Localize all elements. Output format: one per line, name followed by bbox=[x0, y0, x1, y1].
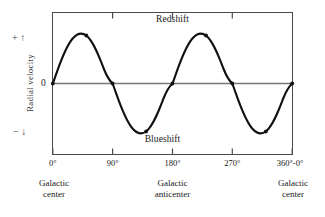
caption-line-1: Galactic bbox=[39, 178, 69, 188]
caption-line-2: center bbox=[39, 189, 69, 200]
blueshift-annotation: Blueshift bbox=[0, 134, 325, 144]
y-axis-title: Radial velocity bbox=[25, 8, 35, 158]
x-caption-galactic-center-left: Galactic center bbox=[39, 178, 69, 200]
caption-line-2: center bbox=[278, 189, 308, 200]
x-tick-label-90: 90° bbox=[107, 158, 119, 168]
y-axis-plus-sign: + ↑ bbox=[12, 32, 25, 43]
x-tick-label-360: 360°-0° bbox=[277, 158, 304, 168]
x-caption-galactic-anticenter: Galactic anticenter bbox=[155, 178, 190, 200]
radial-velocity-figure: Redshift Blueshift 0 + ↑ − ↓ Radial velo… bbox=[0, 0, 325, 217]
plus-sign: + bbox=[12, 32, 18, 43]
x-tick-label-180: 180° bbox=[164, 158, 180, 168]
x-tick-label-0: 0° bbox=[49, 158, 57, 168]
minus-sign: − bbox=[13, 126, 19, 137]
y-axis-zero-label: 0 bbox=[41, 78, 46, 88]
caption-line-1: Galactic bbox=[158, 178, 188, 188]
x-tick-label-270: 270° bbox=[224, 158, 240, 168]
caption-line-1: Galactic bbox=[278, 178, 308, 188]
redshift-annotation: Redshift bbox=[0, 14, 325, 24]
x-caption-galactic-center-right: Galactic center bbox=[278, 178, 308, 200]
caption-line-2: anticenter bbox=[155, 189, 190, 200]
